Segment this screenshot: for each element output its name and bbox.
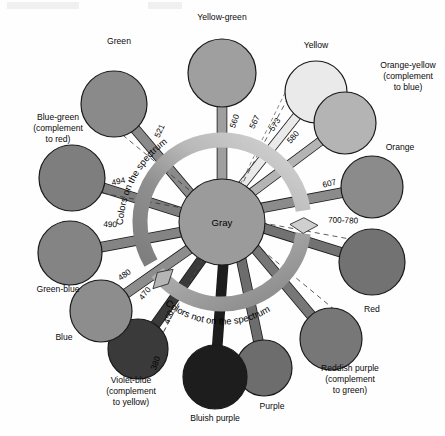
wavelength-label: 567 <box>248 113 262 130</box>
hue-complement-label: (complement <box>33 123 83 133</box>
hue-complement-label: to red) <box>46 134 71 144</box>
hue-complement-label: (complement <box>106 386 156 396</box>
hue-name-label: Orange <box>386 142 415 152</box>
hue-complement-label: to blue) <box>394 82 423 92</box>
hue-name-label: Blue <box>55 332 72 342</box>
hue-circle-green-blue[interactable] <box>38 221 102 285</box>
hue-name-label: Green <box>107 36 131 46</box>
wavelength-label: 700-780 <box>328 215 359 225</box>
hue-circle-yellow-green[interactable] <box>188 39 256 107</box>
hue-circle-green[interactable] <box>81 71 147 137</box>
hue-circle-red[interactable] <box>339 229 405 295</box>
wavelength-label: 607 <box>322 177 338 189</box>
hue-name-label: Bluish purple <box>190 413 240 423</box>
hue-circle-orange[interactable] <box>341 156 403 218</box>
hue-name-label: Violet-blue <box>111 375 152 385</box>
color-wheel-diagram: Gray Colors on the spectrum Colors not o… <box>0 0 445 436</box>
hue-name-label: Purple <box>260 401 285 411</box>
hue-name-label: Reddish purple <box>321 363 379 373</box>
hue-circle-orange-yellow[interactable] <box>314 92 376 154</box>
hue-complement-label: to yellow) <box>113 397 149 407</box>
hue-name-label: Blue-green <box>37 112 79 122</box>
wavelength-label: 560 <box>228 113 241 129</box>
hue-name-label: Yellow-green <box>197 12 247 22</box>
scan-artifact-right <box>148 2 182 9</box>
wheel-svg: Gray Colors on the spectrum Colors not o… <box>0 0 445 436</box>
wavelength-label: 521 <box>153 123 167 140</box>
hub-label: Gray <box>212 217 233 228</box>
hue-complement-label: to green) <box>333 385 368 395</box>
hue-name-label: Green-blue <box>37 284 80 294</box>
hue-circle-bluish-purple[interactable] <box>183 345 247 409</box>
wavelength-label: 480 <box>116 267 133 283</box>
hue-complement-label: (complement <box>325 374 375 384</box>
hue-circle-reddish-purple[interactable] <box>300 308 362 370</box>
hue-name-label: Orange-yellow <box>380 60 436 70</box>
hue-complement-label: (complement <box>383 71 433 81</box>
hue-name-label: Red <box>364 304 380 314</box>
wavelength-label: 490 <box>103 220 118 230</box>
ring-arrow-right <box>290 218 318 234</box>
scan-artifact-left <box>7 2 79 9</box>
hue-name-label: Yellow <box>304 40 329 50</box>
hue-circle-blue-green[interactable] <box>39 145 105 211</box>
